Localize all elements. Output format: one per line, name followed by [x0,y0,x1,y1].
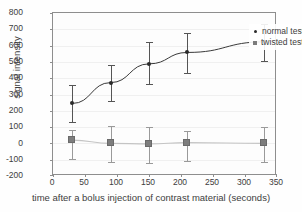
error-bar-cap [108,162,115,163]
x-tick-label: 350 [261,178,291,187]
error-bar-cap [146,84,153,85]
error-bar-cap [184,131,191,132]
error-bar-cap [69,85,76,86]
y-tick-label: 800 [0,8,23,17]
data-point [147,62,151,66]
error-bar-cap [184,33,191,34]
y-tick-label: 300 [0,90,23,99]
x-tick-label: 200 [165,178,195,187]
legend-entry-normal-testis: normal testis [252,26,302,37]
series-lines [53,13,277,176]
legend-entry-twisted-testis: twisted testis [252,37,302,48]
error-bar-cap [69,130,76,131]
x-tick-label: 0 [37,178,67,187]
error-bar-cap [184,73,191,74]
y-tick-label: -100 [0,155,23,164]
error-bar-cap [146,163,153,164]
data-point [68,136,75,143]
data-point [107,139,114,146]
data-point [109,81,113,85]
legend: normal testis twisted testis [249,24,302,50]
data-point [260,139,267,146]
error-bar-cap [146,127,153,128]
circle-marker-icon [254,30,257,33]
data-point [183,139,190,146]
legend-label: normal testis [262,27,302,36]
error-bar-cap [69,122,76,123]
data-point [145,140,152,147]
error-bar-cap [108,126,115,127]
chart-figure: signal intensity 800 700 600 500 400 300… [0,0,302,212]
error-bar-cap [108,65,115,66]
x-tick-label: 300 [229,178,259,187]
plot-area: normal testis twisted testis [52,12,276,175]
y-tick-label: 0 [0,139,23,148]
y-tick-label: 700 [0,24,23,33]
x-tick-label: 50 [69,178,99,187]
y-tick-label: 600 [0,41,23,50]
x-tick-label: 250 [197,178,227,187]
error-bar-cap [184,161,191,162]
error-bar-cap [261,162,268,163]
y-tick-label: 400 [0,73,23,82]
x-tick-label: 100 [101,178,131,187]
x-axis-title: time after a bolus injection of contrast… [0,192,302,203]
error-bar [72,130,73,159]
square-marker-icon [253,41,257,45]
y-tick-label: 200 [0,106,23,115]
x-tick-label: 150 [133,178,163,187]
error-bar-cap [69,159,76,160]
y-tick-label: 500 [0,57,23,66]
error-bar-cap [261,127,268,128]
legend-label: twisted testis [261,38,302,47]
y-tick-label: 100 [0,122,23,131]
error-bar [187,131,188,161]
y-tick-label: -200 [0,171,23,180]
error-bar-cap [108,101,115,102]
error-bar-cap [146,42,153,43]
error-bar-cap [261,61,268,62]
